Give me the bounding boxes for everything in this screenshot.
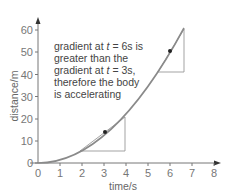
annotation-line-2: greater than the (54, 52, 128, 64)
annotation: gradient at t = 6s is greater than the g… (54, 40, 143, 100)
x-tick-3: 3 (101, 167, 107, 179)
distance-time-graph: 0 10 20 30 40 50 60 0 1 2 3 4 5 6 7 8 ti… (0, 0, 233, 196)
x-axis-arrow-icon (214, 161, 221, 166)
x-tick-0: 0 (35, 167, 41, 179)
x-tick-6: 6 (167, 167, 173, 179)
annotation-line-4: therefore the body (54, 76, 140, 88)
x-tick-4: 4 (123, 167, 129, 179)
x-tick-7: 7 (189, 167, 195, 179)
annotation-line-1: gradient at t = 6s is (54, 40, 143, 52)
x-tick-labels: 0 1 2 3 4 5 6 7 8 (35, 167, 217, 179)
y-axis-arrow-icon (36, 17, 41, 24)
y-tick-20: 20 (21, 113, 33, 125)
y-tick-50: 50 (21, 46, 33, 58)
x-tick-8: 8 (211, 167, 217, 179)
annotation-line-3: gradient at t = 3s, (54, 64, 135, 76)
x-axis-label: time/s (109, 180, 137, 192)
y-axis-label: distance/m (8, 70, 20, 121)
y-tick-60: 60 (21, 24, 33, 36)
y-tick-labels: 0 10 20 30 40 50 60 (21, 24, 33, 169)
point-t3 (103, 130, 107, 134)
y-tick-0: 0 (27, 157, 33, 169)
x-tick-2: 2 (79, 167, 85, 179)
y-tick-10: 10 (21, 135, 33, 147)
y-tick-40: 40 (21, 69, 33, 81)
point-t6 (168, 49, 172, 53)
y-tick-30: 30 (21, 91, 33, 103)
x-tick-5: 5 (145, 167, 151, 179)
annotation-line-5: is accelerating (54, 88, 121, 100)
x-tick-1: 1 (57, 167, 63, 179)
